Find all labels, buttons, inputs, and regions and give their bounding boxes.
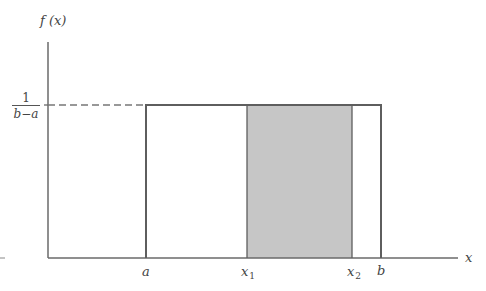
- tick-label-x1: x1: [241, 265, 255, 281]
- fraction-numerator: 1: [8, 92, 44, 105]
- y-axis-label: f (x): [40, 14, 66, 27]
- diagram-svg: [0, 0, 486, 291]
- tick-label-a: a: [142, 265, 150, 278]
- tick-label-a-text: a: [142, 264, 150, 279]
- tick-label-b-text: b: [377, 263, 385, 278]
- tick-label-x2-text: x: [347, 264, 354, 279]
- x-axis-label: x: [465, 251, 472, 264]
- tick-label-x2-subscript: 2: [355, 271, 361, 281]
- density-value-label: 1 b−a: [8, 92, 44, 120]
- tick-label-x1-subscript: 1: [249, 271, 255, 281]
- shaded-probability-region: [247, 105, 352, 258]
- tick-label-x1-text: x: [241, 264, 248, 279]
- uniform-distribution-diagram: f (x) 1 b−a a x1 x2 b x: [0, 0, 486, 291]
- tick-label-b: b: [377, 264, 385, 277]
- tick-label-x2: x2: [347, 265, 361, 281]
- fraction-denominator: b−a: [8, 106, 44, 120]
